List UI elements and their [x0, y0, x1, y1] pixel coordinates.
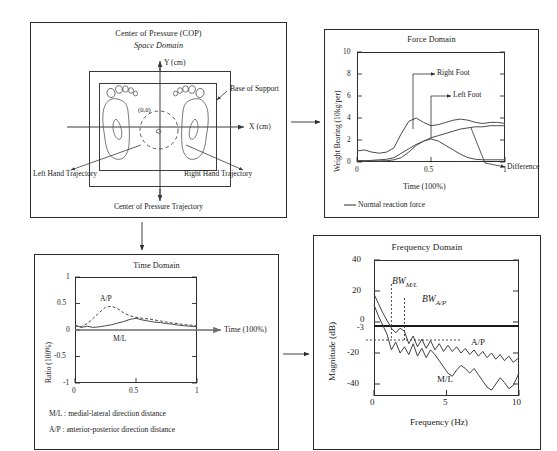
time-ytick-0: 0	[66, 326, 70, 333]
force-x-axis-title: Time (100%)	[403, 183, 446, 191]
leader-left-foot	[431, 96, 451, 138]
force-ytick-8: 8	[347, 70, 351, 77]
space-domain-graphics	[31, 23, 288, 219]
bw-ap-sub: A/P	[436, 299, 447, 307]
time-xtick-0: 0	[72, 387, 76, 394]
cop-sway-circle	[140, 111, 178, 149]
time-ytick-1: 1	[66, 273, 70, 280]
right-hand-trajectory-arrow	[186, 145, 243, 170]
left-hand-trajectory-label: Left Hand Trajectory	[33, 170, 97, 178]
panel-force-domain: Force Domain Weight Bearing (10kg/per)	[324, 29, 539, 218]
bw-ap-base: BW	[422, 294, 436, 304]
freq-xtick-10: 10	[512, 398, 521, 407]
freq-ytick-minus3: -3	[357, 324, 364, 332]
label-ap-frequency: A/P	[471, 338, 485, 347]
label-ap-time: A/P	[100, 295, 112, 303]
x-axis-label: X (cm)	[249, 123, 271, 131]
origin-label: (0,0)	[138, 107, 151, 114]
bandwidth-ml-label: BWM/L	[392, 277, 417, 289]
label-left-foot: Left Foot	[453, 91, 481, 99]
time-plot-graphics	[35, 255, 280, 451]
note-ap: A/P : anterior-posterior direction dista…	[49, 426, 175, 434]
base-of-support-label: Base of Support	[230, 85, 279, 93]
right-foot-outline	[173, 85, 208, 159]
label-ml-time: M/L	[113, 335, 127, 343]
force-xtick-0: 0	[355, 166, 359, 173]
leader-right-foot	[413, 74, 435, 129]
curve-ml	[75, 318, 197, 327]
curve-ap	[75, 306, 197, 327]
time-x-axis-title: Time (100%)	[224, 326, 267, 334]
force-ytick-0: 0	[347, 158, 351, 165]
force-xtick-05: 0.5	[424, 166, 433, 173]
frequency-x-axis-title: Frequency (Hz)	[410, 418, 468, 427]
label-difference: Difference	[507, 163, 539, 171]
bandwidth-ap-label: BWA/P	[422, 295, 446, 307]
force-ytick-4: 4	[347, 114, 351, 121]
leader-difference	[471, 128, 505, 167]
bw-ml-sub: M/L	[406, 281, 418, 289]
freq-xtick-0: 0	[370, 398, 375, 407]
cop-trajectory-label: Center of Pressure Trajectory	[31, 203, 286, 211]
panel-space-domain: Center of Pressure (COP) Space Domain	[30, 22, 287, 218]
time-xtick-1: 1	[195, 387, 199, 394]
right-hand-trajectory-label: Right Hand Trajectory	[184, 170, 252, 178]
freq-ytick-20: 20	[352, 286, 361, 295]
time-ytick-05: 0.5	[57, 299, 66, 306]
force-ytick-10: 10	[343, 48, 350, 55]
force-ytick-2: 2	[347, 136, 351, 143]
freq-ytick-40: 40	[352, 255, 361, 264]
time-xtick-05: 0.5	[129, 387, 138, 394]
bw-ml-base: BW	[392, 276, 406, 286]
left-hand-trajectory-arrow	[71, 145, 141, 170]
y-axis-label: Y (cm)	[164, 59, 185, 67]
base-of-support-pointer	[217, 91, 227, 100]
panel-time-domain: Time Domain Ratio (100%)	[34, 254, 279, 450]
time-ytick-neg05: -0.5	[54, 352, 66, 359]
time-ytick-neg1: -1	[63, 379, 69, 386]
force-legend-note: Normal reaction force	[358, 201, 425, 209]
spectrum-ap	[374, 294, 519, 362]
label-right-foot: Right Foot	[437, 69, 470, 77]
note-ml: M/L : medial-lateral direction distance	[49, 410, 166, 418]
freq-ytick-neg40: -40	[347, 379, 359, 388]
panel-frequency-domain: Frequency Domain Magnitude (dB)	[313, 235, 541, 450]
label-ml-frequency: M/L	[437, 375, 453, 384]
freq-xtick-5: 5	[443, 398, 448, 407]
freq-ytick-neg20: -20	[347, 348, 359, 357]
force-ytick-6: 6	[347, 92, 351, 99]
